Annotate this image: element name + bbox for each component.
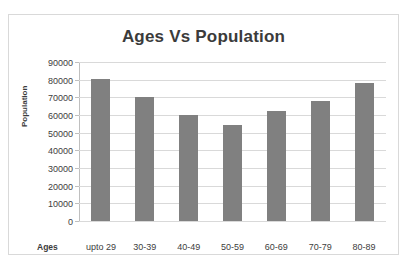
plot-area xyxy=(79,63,386,222)
y-axis-tick-label: 20000 xyxy=(48,182,73,192)
y-axis-tick xyxy=(75,97,79,98)
x-axis-tick-label: 70-79 xyxy=(309,242,332,252)
bar xyxy=(267,111,286,221)
y-axis-tick xyxy=(75,62,79,63)
y-axis-tick xyxy=(75,203,79,204)
chart-title: Ages Vs Population xyxy=(9,27,398,47)
x-axis-tick-label: 80-89 xyxy=(353,242,376,252)
bar xyxy=(223,125,242,221)
bar xyxy=(355,83,374,221)
gridline xyxy=(79,62,386,63)
y-axis-tick-label: 40000 xyxy=(48,146,73,156)
x-axis-tick-label: 60-69 xyxy=(265,242,288,252)
x-axis-tick-label: 40-49 xyxy=(177,242,200,252)
y-axis-tick xyxy=(75,133,79,134)
x-axis-tick-label: upto 29 xyxy=(86,242,116,252)
x-axis-tick-label: 50-59 xyxy=(221,242,244,252)
bar xyxy=(135,97,154,221)
y-axis-tick-label: 10000 xyxy=(48,199,73,209)
gridline xyxy=(79,221,386,222)
bar xyxy=(91,79,110,221)
chart-frame: Ages Vs Population Population Ages 01000… xyxy=(8,14,399,255)
y-axis-tick-label: 70000 xyxy=(48,93,73,103)
y-axis-tick-label: 50000 xyxy=(48,129,73,139)
y-axis-title: Population xyxy=(20,86,29,127)
gridline xyxy=(79,97,386,98)
y-axis-tick xyxy=(75,168,79,169)
y-axis-tick xyxy=(75,80,79,81)
y-axis-tick-label: 60000 xyxy=(48,111,73,121)
y-axis-line xyxy=(79,63,80,222)
x-axis-tick-label: 30-39 xyxy=(133,242,156,252)
bar xyxy=(179,115,198,221)
gridline xyxy=(79,115,386,116)
bar xyxy=(311,101,330,221)
gridline xyxy=(79,80,386,81)
y-axis-tick-label: 30000 xyxy=(48,164,73,174)
y-axis-tick xyxy=(75,115,79,116)
y-axis-tick-label: 90000 xyxy=(48,58,73,68)
x-axis-title: Ages xyxy=(37,242,58,252)
y-axis-tick xyxy=(75,150,79,151)
y-axis-tick xyxy=(75,221,79,222)
y-axis-tick-label: 80000 xyxy=(48,76,73,86)
y-axis-tick-label: 0 xyxy=(68,217,73,227)
y-axis-tick xyxy=(75,186,79,187)
